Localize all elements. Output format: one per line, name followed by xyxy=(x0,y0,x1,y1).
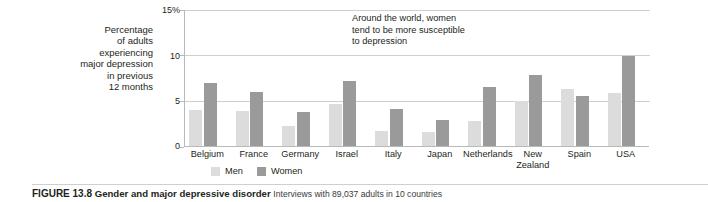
chart-annotation: Around the world, women tend to be more … xyxy=(352,13,465,48)
legend-item-men: Men xyxy=(211,166,243,176)
bar-men-usa xyxy=(608,93,621,146)
x-tick-label-netherlands: Netherlands xyxy=(463,149,510,160)
bar-men-italy xyxy=(375,131,388,146)
bar-men-netherlands xyxy=(468,121,481,146)
bar-men-belgium xyxy=(189,110,202,146)
bar-women-new-zealand xyxy=(529,75,542,146)
chart-annotation-line: to depression xyxy=(352,36,465,48)
y-axis-label-line: 12 months xyxy=(60,81,153,92)
y-axis-label-line: major depression xyxy=(60,58,153,69)
y-tick-label-15: 15% xyxy=(146,5,180,15)
legend-swatch-icon xyxy=(211,167,220,176)
x-tick-label-italy: Italy xyxy=(370,149,417,160)
legend-label-women: Women xyxy=(271,166,303,176)
bar-men-france xyxy=(236,111,249,146)
x-tick-label-france: France xyxy=(231,149,278,160)
x-tick-label-usa: USA xyxy=(603,149,650,160)
figure-caption: FIGURE 13.8 Gender and major depressive … xyxy=(32,188,708,200)
y-axis-label-line: Percentage xyxy=(60,24,153,35)
bar-men-spain xyxy=(561,89,574,146)
y-tick-label-0: 0 xyxy=(146,141,180,151)
x-tick-label-germany: Germany xyxy=(277,149,324,160)
chart-annotation-line: Around the world, women xyxy=(352,13,465,25)
figure-description: Interviews with 89,037 adults in 10 coun… xyxy=(273,189,442,199)
y-axis-label-line: experiencing xyxy=(60,47,153,58)
figure-number: FIGURE 13.8 xyxy=(32,188,92,199)
y-axis-label: Percentage of adults experiencing major … xyxy=(60,24,153,92)
bar-group xyxy=(464,10,511,146)
bar-men-new-zealand xyxy=(515,101,528,146)
bar-women-netherlands xyxy=(483,87,496,146)
bar-women-usa xyxy=(622,56,635,146)
bar-men-japan xyxy=(422,132,435,146)
x-tick-label-belgium: Belgium xyxy=(184,149,231,160)
bar-group xyxy=(278,10,325,146)
bar-women-france xyxy=(250,92,263,146)
x-tick-label-israel: Israel xyxy=(324,149,371,160)
bar-women-spain xyxy=(576,96,589,146)
x-tick-label-spain: Spain xyxy=(556,149,603,160)
y-tick-label-10: 10 xyxy=(146,51,180,61)
bar-group xyxy=(185,10,232,146)
y-tick-label-5: 5 xyxy=(146,96,180,106)
bar-men-germany xyxy=(282,126,295,146)
x-tick-label-japan: Japan xyxy=(417,149,464,160)
figure-container: Percentage of adults experiencing major … xyxy=(0,0,708,202)
caption-divider xyxy=(32,184,708,185)
bar-women-germany xyxy=(297,112,310,146)
chart-legend: Men Women xyxy=(211,166,302,176)
legend-label-men: Men xyxy=(225,166,243,176)
chart-annotation-line: tend to be more susceptible xyxy=(352,25,465,37)
bar-men-israel xyxy=(329,104,342,146)
figure-title: Gender and major depressive disorder xyxy=(95,188,271,199)
bar-women-belgium xyxy=(204,83,217,146)
bar-women-japan xyxy=(436,120,449,146)
y-axis-label-line: in previous xyxy=(60,70,153,81)
bar-women-israel xyxy=(343,81,356,146)
bar-group xyxy=(232,10,279,146)
y-axis-label-line: of adults xyxy=(60,35,153,46)
bar-group xyxy=(557,10,604,146)
x-tick-label-new-zealand: NewZealand xyxy=(510,149,557,170)
bar-women-italy xyxy=(390,109,403,146)
bar-group xyxy=(604,10,651,146)
legend-item-women: Women xyxy=(257,166,303,176)
bar-chart: Percentage of adults experiencing major … xyxy=(0,0,708,178)
legend-swatch-icon xyxy=(257,167,266,176)
bar-group xyxy=(511,10,558,146)
